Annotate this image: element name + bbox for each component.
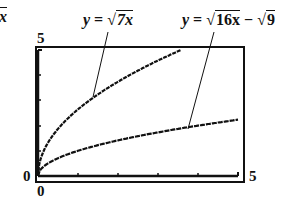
- label-eq2: y = √16x − √9: [182, 11, 275, 29]
- curve-sqrt-7x: [38, 50, 181, 176]
- x-min-label: 0: [37, 183, 45, 199]
- x-max-label: 5: [249, 168, 257, 185]
- y-min-label: 0: [23, 168, 31, 185]
- label-fragment-sqrt-x: x: [0, 8, 7, 26]
- label-eq1: y = √7x: [83, 11, 133, 29]
- leader-line-eq1: [93, 32, 108, 97]
- curve-sqrt-16x-minus-sqrt-9x: [38, 120, 238, 176]
- y-max-label: 5: [37, 30, 45, 47]
- plot-frame: [36, 47, 244, 182]
